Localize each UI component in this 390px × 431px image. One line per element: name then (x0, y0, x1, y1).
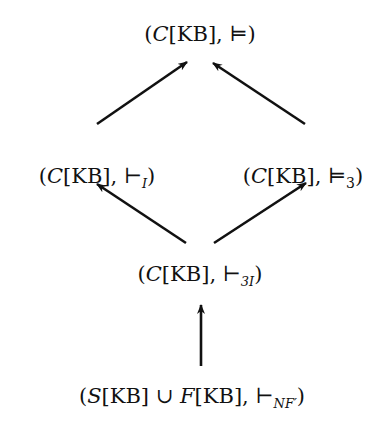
kb-label: [KB] (102, 384, 150, 408)
kb-label-2: [KB] (195, 384, 243, 408)
separator: , (315, 164, 328, 188)
node-c-kb-models: (C[KB], ⊨) (144, 24, 255, 48)
relation-subscript: 3I (241, 274, 254, 289)
set-symbol: C (47, 164, 63, 188)
arrow-left-to-top (97, 62, 187, 124)
relation-symbol: ⊢ (255, 384, 273, 408)
set-symbol-f: F (180, 384, 195, 408)
open-paren: ( (144, 22, 152, 46)
node-c-kb-proves-i: (C[KB], ⊢I) (39, 166, 156, 190)
arrow-middle-to-right (214, 183, 306, 243)
close-paren: ) (147, 164, 155, 188)
set-symbol: C (146, 262, 162, 286)
relation-symbol: ⊨ (328, 164, 346, 188)
set-symbol: C (152, 22, 168, 46)
relation-subscript: NF′ (274, 396, 297, 411)
open-paren: ( (243, 164, 251, 188)
set-symbol: C (251, 164, 267, 188)
relation-symbol: ⊢ (223, 262, 241, 286)
separator: , (242, 384, 255, 408)
set-symbol-s: S (87, 384, 101, 408)
separator: , (111, 164, 124, 188)
kb-label: [KB] (169, 22, 217, 46)
relation-subscript: 3 (346, 175, 355, 191)
arrow-middle-to-left (97, 184, 186, 243)
kb-label: [KB] (63, 164, 111, 188)
open-paren: ( (39, 164, 47, 188)
arrow-right-to-top (213, 63, 305, 124)
close-paren: ) (355, 164, 363, 188)
union-symbol: ∪ (149, 384, 180, 408)
close-paren: ) (248, 22, 256, 46)
close-paren: ) (297, 384, 305, 408)
kb-label: [KB] (267, 164, 315, 188)
node-c-kb-proves-3i: (C[KB], ⊢3I) (138, 264, 263, 288)
relation-symbol: ⊢ (124, 164, 142, 188)
kb-label: [KB] (162, 262, 210, 286)
open-paren: ( (138, 262, 146, 286)
node-s-union-f-kb-proves-nf: (S[KB] ∪ F[KB], ⊢NF′) (79, 386, 305, 410)
edges-layer (0, 0, 390, 431)
relation-symbol: ⊨ (229, 22, 247, 46)
separator: , (216, 22, 229, 46)
separator: , (209, 262, 222, 286)
node-c-kb-models-3: (C[KB], ⊨3) (243, 166, 363, 190)
open-paren: ( (79, 384, 87, 408)
close-paren: ) (254, 262, 262, 286)
